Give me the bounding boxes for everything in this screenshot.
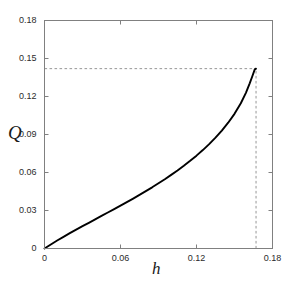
y-tick-label: 0.06 [0, 167, 37, 177]
y-tick-label: 0.03 [0, 205, 37, 215]
x-tick-label: 0.06 [101, 253, 141, 263]
x-tick-label: 0.12 [177, 253, 217, 263]
plot-figure [0, 0, 296, 285]
y-tick-label: 0.18 [0, 15, 37, 25]
y-tick-label: 0.15 [0, 53, 37, 63]
plot-area [45, 21, 273, 249]
x-tick-label: 0.18 [253, 253, 293, 263]
y-tick-label: 0.09 [0, 129, 37, 139]
y-tick-label: 0.12 [0, 91, 37, 101]
y-tick-label: 0 [0, 243, 37, 253]
plot-background [45, 21, 273, 249]
x-tick-label: 0 [25, 253, 65, 263]
x-axis-label: h [152, 259, 161, 279]
